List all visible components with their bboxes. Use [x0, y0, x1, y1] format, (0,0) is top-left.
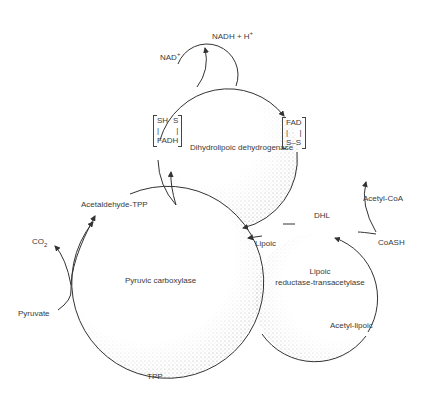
pyruvic-carboxylase-label: Pyruvic carboxylase — [125, 277, 196, 285]
co2-label: CO2 — [32, 238, 47, 248]
transacetylase-label: Lipoic reductase-transacetylase — [266, 266, 374, 288]
lipoic-label: Lipoic — [255, 240, 276, 248]
acetyl-lipoic-label: Acetyl-lipoic — [330, 322, 373, 330]
coash-label: CoASH — [378, 239, 405, 247]
dehydrogenase-label: Dihydrolipoic dehydrogenase — [190, 144, 293, 152]
reduced-fad-cofactor: SH S || FADH — [153, 115, 182, 147]
nadh-label: NADH + H+ — [212, 30, 253, 41]
acetaldehyde-tpp-label: Acetaldehyde-TPP — [81, 201, 148, 209]
oxidized-fad-cofactor: FAD || S–S — [282, 117, 306, 149]
stipple-shading — [70, 86, 382, 378]
nad-label: NAD+ — [160, 51, 180, 62]
pyruvate-label: Pyruvate — [18, 310, 50, 318]
nad-arc — [178, 44, 238, 86]
acetyl-coa-label: Acetyl-CoA — [363, 195, 403, 203]
dhl-label: DHL — [314, 212, 330, 220]
tpp-label: TPP — [147, 373, 163, 381]
